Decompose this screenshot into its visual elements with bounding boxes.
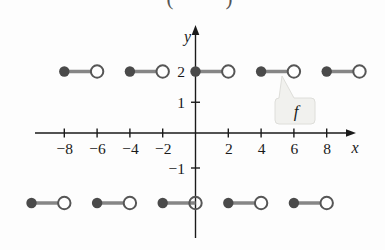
y-tick-label: −1 — [169, 160, 186, 177]
closed-endpoint-dot — [322, 66, 332, 76]
cropped-caption-fragment: ) — [226, 0, 233, 10]
open-endpoint-circle — [124, 197, 136, 209]
closed-endpoint-dot — [92, 198, 102, 208]
open-endpoint-circle — [255, 197, 267, 209]
x-tick-label: −8 — [57, 140, 74, 157]
graph-canvas: ()−8−6−4−2246821−1xyf — [0, 0, 385, 250]
y-axis-arrow-icon — [192, 25, 200, 35]
open-endpoint-circle — [353, 65, 365, 77]
open-endpoint-circle — [91, 65, 103, 77]
open-endpoint-circle — [157, 65, 169, 77]
x-tick-label: −6 — [89, 140, 106, 157]
open-endpoint-circle — [321, 197, 333, 209]
figure: ()−8−6−4−2246821−1xyf — [0, 0, 385, 250]
open-endpoint-circle — [288, 65, 300, 77]
x-tick-label: 6 — [291, 140, 299, 157]
closed-endpoint-dot — [256, 66, 266, 76]
open-endpoint-circle — [222, 65, 234, 77]
closed-endpoint-dot — [289, 198, 299, 208]
x-tick-label: 2 — [225, 140, 233, 157]
y-tick-label: 2 — [177, 63, 185, 80]
closed-endpoint-dot — [223, 198, 233, 208]
closed-endpoint-dot — [158, 198, 168, 208]
closed-endpoint-dot — [125, 66, 135, 76]
function-label-callout: f — [275, 76, 315, 124]
x-axis-label: x — [350, 139, 358, 156]
y-tick-label: 1 — [177, 94, 185, 111]
axes: −8−6−4−2246821−1xy — [35, 25, 359, 238]
closed-endpoint-dot — [26, 198, 36, 208]
open-endpoint-circle — [58, 197, 70, 209]
x-tick-label: −4 — [122, 140, 139, 157]
x-axis-arrow-icon — [346, 129, 356, 137]
closed-endpoint-dot — [59, 66, 69, 76]
x-tick-label: 8 — [323, 140, 331, 157]
y-axis-label: y — [182, 28, 192, 46]
cropped-caption-fragment: ( — [167, 0, 174, 10]
x-tick-label: −2 — [155, 140, 172, 157]
x-tick-label: 4 — [258, 140, 266, 157]
closed-endpoint-dot — [190, 66, 200, 76]
